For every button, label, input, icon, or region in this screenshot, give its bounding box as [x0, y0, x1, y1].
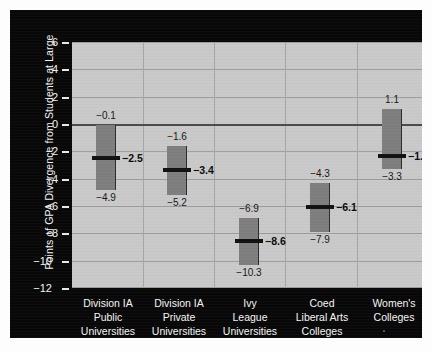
x-category-line: Women's [348, 296, 422, 310]
gridline-v-4 [357, 42, 358, 288]
y-tick-neg8 [62, 233, 69, 235]
median-marker-4 [306, 205, 334, 209]
range-bottom-label-3: −10.3 [222, 267, 276, 278]
median-marker-2 [163, 168, 191, 172]
y-tick-neg2 [62, 151, 69, 153]
y-tick-label-neg12: −12 [18, 282, 52, 294]
y-tick-0 [62, 124, 69, 126]
range-top-label-1: −0.1 [82, 110, 130, 121]
y-tick-label-2: 2 [24, 91, 58, 103]
median-label-4: −6.1 [336, 201, 357, 213]
gridline-v-3 [285, 42, 286, 288]
y-tick-label-4: 4 [24, 63, 58, 75]
gridline-h-neg12 [72, 287, 422, 288]
median-label-3: −8.6 [265, 235, 286, 247]
x-category-line: Colleges [276, 324, 368, 338]
y-tick-label-neg6: −6 [24, 200, 58, 212]
chart-panel: Points of GPA Divergence from Students a… [10, 10, 422, 338]
median-label-5: −1.1 [408, 150, 422, 162]
range-top-label-5: 1.1 [368, 94, 416, 105]
y-tick-label-neg4: −4 [24, 173, 58, 185]
y-tick-4 [62, 69, 69, 71]
y-tick-label-neg10: −10 [18, 255, 52, 267]
y-tick-label-0: 0 [24, 118, 58, 130]
chart-figure: Points of GPA Divergence from Students a… [0, 0, 432, 352]
y-tick-neg10 [62, 261, 69, 263]
range-bottom-label-1: −4.9 [82, 192, 130, 203]
zero-reference-line [72, 124, 422, 126]
median-marker-3 [235, 239, 263, 243]
y-tick-label-neg8: −8 [24, 227, 58, 239]
gridline-v-1 [143, 42, 144, 288]
y-tick-neg6 [62, 206, 69, 208]
x-category-label-5: Women's Colleges [348, 296, 422, 324]
y-tick-6 [62, 42, 69, 44]
median-marker-1 [92, 156, 120, 160]
range-bottom-label-2: −5.2 [153, 197, 201, 208]
y-tick-neg4 [62, 179, 69, 181]
range-top-label-3: −6.9 [225, 203, 273, 214]
y-tick-2 [62, 97, 69, 99]
x-category-line: Colleges [348, 310, 422, 324]
range-top-label-4: −4.3 [296, 168, 344, 179]
gridline-h-4 [72, 69, 422, 70]
plot-area: −0.1 −4.9 −2.5 −1.6 −5.2 −3.4 −6.9 −10.3… [72, 42, 422, 288]
artifact-dot [383, 330, 385, 332]
range-bottom-label-5: −3.3 [368, 171, 416, 182]
median-label-1: −2.5 [122, 152, 143, 164]
gridline-v-2 [214, 42, 215, 288]
y-tick-neg12 [62, 288, 69, 290]
y-tick-label-neg2: −2 [24, 145, 58, 157]
range-bottom-label-4: −7.9 [296, 234, 344, 245]
range-top-label-2: −1.6 [153, 131, 201, 142]
median-label-2: −3.4 [193, 164, 214, 176]
y-tick-label-6: 6 [24, 36, 58, 48]
median-marker-5 [378, 154, 406, 158]
gridline-h-6 [72, 42, 422, 43]
range-bar-5 [382, 109, 402, 169]
